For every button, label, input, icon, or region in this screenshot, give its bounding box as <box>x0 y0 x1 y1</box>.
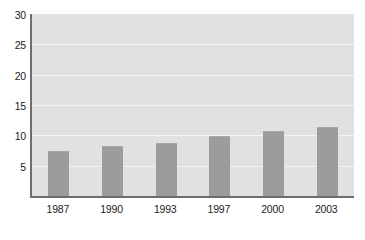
y-tick-label: 25 <box>0 40 26 50</box>
y-tick-label: 20 <box>0 71 26 81</box>
bar <box>263 131 284 196</box>
x-tick-label: 2003 <box>315 203 338 215</box>
gridline <box>32 105 354 106</box>
bar <box>317 127 338 196</box>
bar <box>156 143 177 196</box>
y-tick-label: 5 <box>0 162 26 172</box>
gridline <box>32 166 354 167</box>
bar <box>102 146 123 196</box>
plot-area <box>30 14 354 198</box>
y-tick-label: 15 <box>0 101 26 111</box>
y-tick-label: 10 <box>0 131 26 141</box>
x-tick-label: 2000 <box>261 203 284 215</box>
x-tick-label: 1987 <box>47 203 70 215</box>
x-axis: 198719901993199720002003 <box>30 203 354 223</box>
x-tick-label: 1990 <box>100 203 123 215</box>
x-tick-label: 1997 <box>208 203 231 215</box>
gridline <box>32 135 354 136</box>
bar-chart: 51015202530 198719901993199720002003 <box>0 0 365 240</box>
gridline <box>32 75 354 76</box>
y-tick-label: 30 <box>0 10 26 20</box>
x-tick-label: 1993 <box>154 203 177 215</box>
bar <box>209 136 230 196</box>
gridline <box>32 44 354 45</box>
y-axis: 51015202530 <box>0 0 26 240</box>
bar <box>48 151 69 197</box>
